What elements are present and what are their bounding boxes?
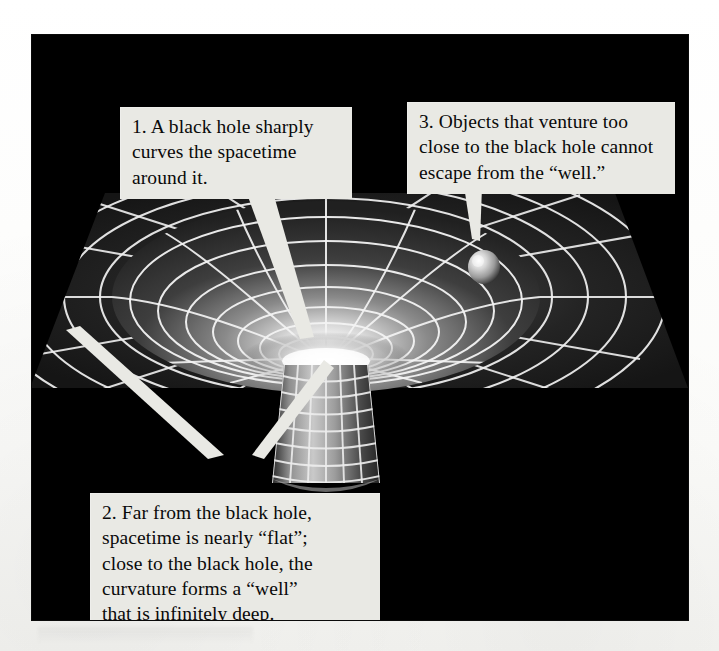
- callout-3-line-1: 3. Objects that venture too: [419, 109, 664, 134]
- callout-3-line-3: escape from the “well.”: [419, 160, 664, 185]
- pointer-callout-2-left: [66, 326, 224, 459]
- callout-box-3: 3. Objects that venture too close to the…: [407, 102, 675, 194]
- page-background: 1. A black hole sharply curves the space…: [0, 0, 719, 651]
- figure-panel: 1. A black hole sharply curves the space…: [32, 35, 688, 620]
- callout-1-line-3: around it.: [132, 165, 341, 190]
- callout-2-line-1: 2. Far from the black hole,: [102, 500, 369, 525]
- callout-1-line-2: curves the spacetime: [132, 139, 341, 164]
- callout-2-line-3: close to the black hole, the: [102, 551, 369, 576]
- callout-2-line-4: curvature forms a “well”: [102, 576, 369, 601]
- callout-2-line-2: spacetime is nearly “flat”;: [102, 525, 369, 550]
- callout-3-line-2: close to the black hole cannot: [419, 134, 664, 159]
- pointer-callout-2-right: [252, 360, 334, 459]
- callout-2-line-5: that is infinitely deep.: [102, 601, 369, 620]
- callout-box-2: 2. Far from the black hole, spacetime is…: [90, 493, 380, 620]
- callout-1-line-1: 1. A black hole sharply: [132, 114, 341, 139]
- callout-box-1: 1. A black hole sharply curves the space…: [120, 107, 352, 199]
- page-bleed-through-smudge: [38, 627, 253, 643]
